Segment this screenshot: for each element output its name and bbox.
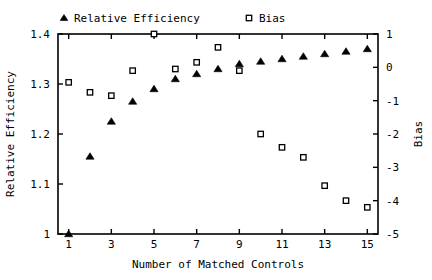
series-relative-efficiency bbox=[65, 45, 372, 236]
y-tick-label: 1.2 bbox=[30, 128, 50, 141]
y2-tick-label: -5 bbox=[386, 228, 399, 241]
x-tick-label: 3 bbox=[108, 238, 115, 251]
data-point-triangle bbox=[299, 53, 307, 59]
x-tick-label: 5 bbox=[151, 238, 158, 251]
data-point-triangle bbox=[342, 48, 350, 54]
data-point-triangle bbox=[257, 58, 265, 64]
data-point-square bbox=[215, 45, 220, 50]
data-point-square bbox=[279, 145, 284, 150]
data-point-square bbox=[109, 93, 114, 98]
x-axis-title: Number of Matched Controls bbox=[132, 258, 304, 271]
y-axis-title: Relative Efficiency bbox=[4, 71, 17, 197]
data-point-square bbox=[66, 80, 71, 85]
y-tick-label: 1.4 bbox=[30, 28, 50, 41]
data-point-square bbox=[343, 198, 348, 203]
data-point-triangle bbox=[107, 118, 115, 124]
x-tick-label: 11 bbox=[275, 238, 288, 251]
x-tick-label: 1 bbox=[65, 238, 72, 251]
x-tick-label: 7 bbox=[193, 238, 200, 251]
x-tick-label: 13 bbox=[318, 238, 331, 251]
data-point-triangle bbox=[363, 45, 371, 51]
y-tick-label: 1 bbox=[43, 228, 50, 241]
data-point-triangle bbox=[86, 153, 94, 159]
data-point-triangle bbox=[171, 75, 179, 81]
y2-tick-label: 1 bbox=[386, 28, 393, 41]
y2-tick-label: -3 bbox=[386, 161, 399, 174]
legend-label-bias: Bias bbox=[259, 12, 286, 25]
data-point-square bbox=[301, 155, 306, 160]
data-point-triangle bbox=[193, 70, 201, 76]
data-point-square bbox=[365, 205, 370, 210]
data-point-square bbox=[87, 90, 92, 95]
x-tick-label: 15 bbox=[361, 238, 374, 251]
chart-figure: 1357911131511.11.21.31.4-5-4-3-2-101Numb… bbox=[0, 0, 432, 280]
data-point-square bbox=[246, 15, 251, 20]
data-point-square bbox=[130, 68, 135, 73]
data-point-square bbox=[258, 131, 263, 136]
data-point-square bbox=[194, 60, 199, 65]
data-point-triangle bbox=[278, 55, 286, 61]
data-point-triangle bbox=[150, 85, 158, 91]
data-point-square bbox=[151, 31, 156, 36]
y-tick-label: 1.3 bbox=[30, 78, 50, 91]
scatter-chart: 1357911131511.11.21.31.4-5-4-3-2-101Numb… bbox=[0, 0, 432, 280]
y2-tick-label: 0 bbox=[386, 61, 393, 74]
plot-frame bbox=[58, 34, 378, 234]
legend-label-relative-efficiency: Relative Efficiency bbox=[74, 12, 200, 25]
chart-legend: Relative EfficiencyBias bbox=[60, 12, 285, 25]
y2-tick-label: -1 bbox=[386, 95, 399, 108]
data-point-triangle bbox=[235, 60, 243, 66]
data-point-triangle bbox=[321, 50, 329, 56]
data-point-triangle bbox=[214, 65, 222, 71]
y2-tick-label: -2 bbox=[386, 128, 399, 141]
y-tick-label: 1.1 bbox=[30, 178, 50, 191]
y2-tick-label: -4 bbox=[386, 195, 400, 208]
data-point-square bbox=[173, 66, 178, 71]
data-point-triangle bbox=[129, 98, 137, 104]
data-point-triangle bbox=[60, 14, 68, 20]
y2-axis-title: Bias bbox=[412, 121, 425, 148]
data-point-square bbox=[322, 183, 327, 188]
data-point-square bbox=[237, 68, 242, 73]
x-tick-label: 9 bbox=[236, 238, 243, 251]
